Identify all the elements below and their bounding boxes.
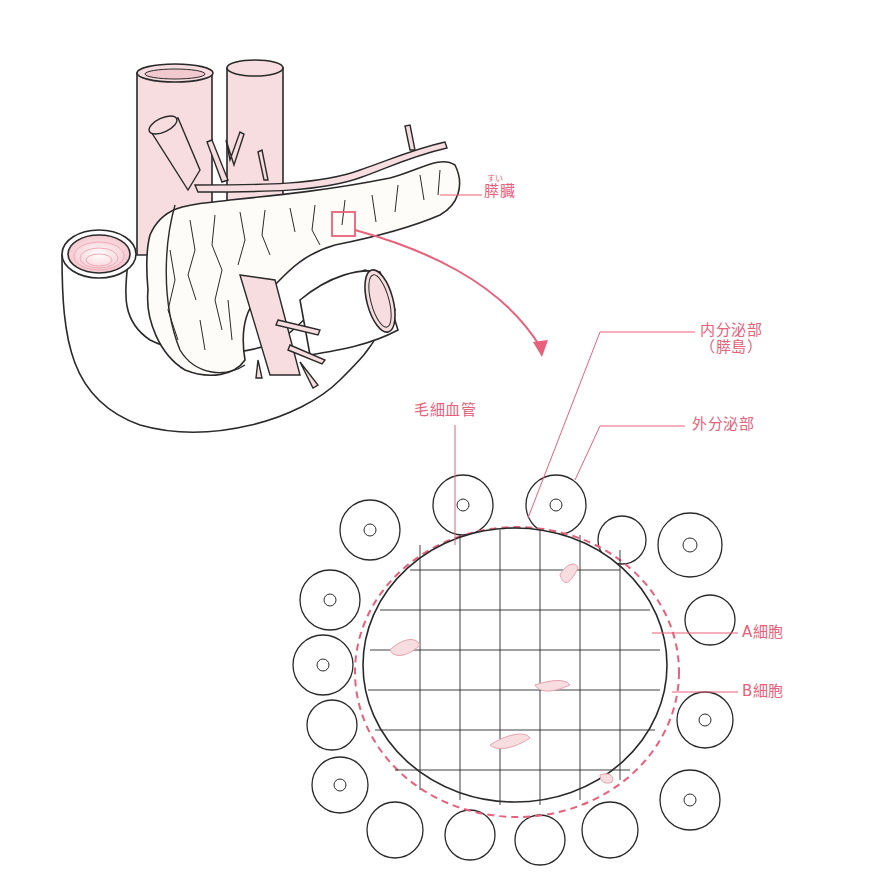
label-b-cell: B細胞: [742, 683, 784, 700]
pancreas-diagram: すい 膵臓 内分泌部 （膵島） 毛細血管 外分泌部 A細胞 B細胞: [0, 0, 873, 895]
label-endocrine: 内分泌部 （膵島）: [700, 322, 762, 357]
label-pancreas: 膵臓: [484, 183, 515, 200]
pancreas-anatomy-illustration: [0, 0, 873, 895]
label-exocrine: 外分泌部: [692, 416, 754, 433]
label-a-cell: A細胞: [742, 624, 784, 641]
label-endocrine-line1: 内分泌部: [700, 322, 762, 339]
islet-micrograph: [293, 475, 735, 865]
label-endocrine-line2: （膵島）: [700, 339, 762, 356]
label-capillary: 毛細血管: [414, 402, 476, 419]
